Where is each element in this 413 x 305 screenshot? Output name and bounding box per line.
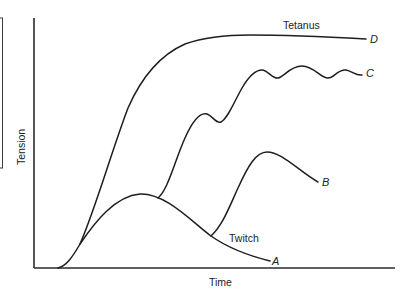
left-frame-fragment: [0, 18, 3, 168]
curve-label-d: D: [370, 33, 378, 45]
tension-time-diagram: Tetanus D C B Twitch A Time Tension: [0, 0, 413, 305]
tetanus-annotation: Tetanus: [283, 19, 320, 31]
curve-label-b: B: [322, 176, 329, 188]
curve-c-unfused-tetanus: [158, 66, 362, 198]
curve-b-summation: [211, 152, 318, 236]
x-axis-label: Time: [209, 276, 232, 288]
curve-a-twitch: [80, 194, 270, 261]
twitch-annotation: Twitch: [229, 232, 259, 244]
curve-d-tetanus: [58, 35, 366, 268]
curve-label-a: A: [271, 255, 279, 267]
curve-label-c: C: [366, 67, 374, 79]
y-axis-label: Tension: [15, 129, 27, 165]
